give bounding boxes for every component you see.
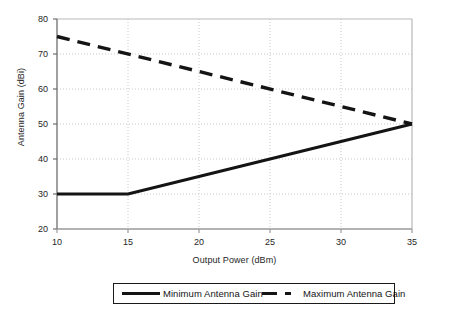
legend-item-maximum-antenna-gain: Maximum Antenna Gain <box>262 284 405 303</box>
y-tick-label-30: 30 <box>26 189 48 199</box>
x-tick-label-30: 30 <box>326 237 356 247</box>
x-axis-title: Output Power (dBm) <box>57 255 412 265</box>
x-tick-label-20: 20 <box>184 237 214 247</box>
legend-label-maximum-antenna-gain: Maximum Antenna Gain <box>303 288 405 299</box>
y-tick-label-80: 80 <box>26 14 48 24</box>
chart-container: Antenna Gain (dBi) Output Power (dBm) 80… <box>0 0 467 318</box>
x-tick-label-10: 10 <box>42 237 72 247</box>
y-tick-label-40: 40 <box>26 154 48 164</box>
chart-legend: Minimum Antenna Gain Maximum Antenna Gai… <box>113 283 395 304</box>
y-tick-label-50: 50 <box>26 119 48 129</box>
y-axis-title: Antenna Gain (dBi) <box>16 42 26 172</box>
x-tick-label-25: 25 <box>255 237 285 247</box>
legend-label-minimum-antenna-gain: Minimum Antenna Gain <box>163 288 263 299</box>
x-tick-label-15: 15 <box>113 237 143 247</box>
legend-swatch-dashed-line-icon <box>262 288 300 299</box>
y-tick-label-60: 60 <box>26 84 48 94</box>
legend-swatch-solid-line-icon <box>122 288 160 299</box>
y-tick-label-70: 70 <box>26 49 48 59</box>
x-tick-label-35: 35 <box>397 237 427 247</box>
chart-plot-area <box>0 0 467 318</box>
series-line-maximum-antenna-gain <box>57 37 412 125</box>
horizontal-gridlines <box>57 54 412 194</box>
legend-item-minimum-antenna-gain: Minimum Antenna Gain <box>122 284 263 303</box>
y-tick-label-20: 20 <box>26 224 48 234</box>
